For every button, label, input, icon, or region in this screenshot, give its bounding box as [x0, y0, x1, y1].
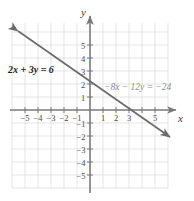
graph-canvas: [0, 0, 194, 201]
x-tick-label-2: 2: [110, 113, 122, 123]
y-tick-label-2: 2: [78, 80, 88, 90]
y-tick-label-1: 1: [78, 93, 88, 103]
x-tick-label-5: 5: [149, 113, 161, 123]
x-tick-label-1: 1: [97, 113, 109, 123]
equation-label-secondary: −8x − 12y = −24: [104, 82, 171, 92]
y-tick-label-neg5: −5: [74, 171, 88, 181]
y-tick-label-neg2: −2: [74, 132, 88, 142]
y-axis-label: y: [81, 6, 86, 18]
equation-label-primary: 2x + 3y = 6: [8, 64, 54, 75]
y-tick-label-neg3: −3: [74, 145, 88, 155]
y-tick-label-neg4: −4: [74, 158, 88, 168]
y-tick-label-4: 4: [78, 54, 88, 64]
y-tick-label-5: 5: [78, 41, 88, 51]
coordinate-plane-figure: y x −5 −4 −3 −2 −1 1 2 3 5 5 4 3 2 1 −1 …: [0, 0, 194, 201]
x-tick-label-3: 3: [123, 113, 135, 123]
y-tick-label-3: 3: [78, 67, 88, 77]
x-axis-label: x: [178, 112, 183, 124]
y-tick-label-neg1: −1: [74, 119, 88, 129]
